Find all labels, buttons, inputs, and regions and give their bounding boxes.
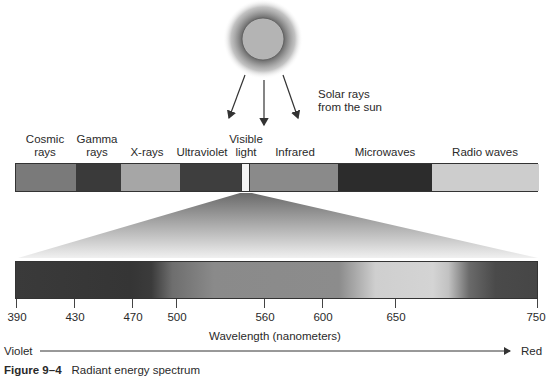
tick-label-560: 560 [255, 311, 274, 323]
ray-arrow-right [283, 75, 298, 118]
band-label-microwaves: Microwaves [345, 146, 425, 159]
band-cosmic [16, 164, 76, 191]
band-radio [432, 164, 539, 191]
band-label-cosmic: Cosmicrays [20, 133, 70, 159]
tick-600 [322, 299, 323, 308]
tick-560 [264, 299, 265, 308]
tick-750 [537, 299, 538, 308]
ray-arrow-left [229, 75, 245, 118]
figure-number: Figure 9–4 [4, 364, 62, 376]
sun-disc [242, 18, 284, 60]
band-visible [241, 164, 250, 191]
tick-label-500: 500 [167, 311, 186, 323]
band-label-gamma: Gammarays [72, 133, 122, 159]
electromagnetic-spectrum-bar [15, 163, 538, 192]
tick-500 [176, 299, 177, 308]
figure-title: Radiant energy spectrum [72, 364, 200, 376]
tick-label-390: 390 [7, 311, 26, 323]
band-label-infrared: Infrared [265, 146, 325, 159]
band-label-ultraviolet: Ultraviolet [170, 146, 234, 159]
band-xrays [121, 164, 180, 191]
sun-label-line1: Solar rays [318, 88, 382, 101]
violet-label: Violet [4, 345, 33, 357]
figure-caption: Figure 9–4Radiant energy spectrum [4, 364, 200, 376]
band-label-xrays: X-rays [122, 146, 172, 159]
tick-label-470: 470 [123, 311, 142, 323]
band-ultraviolet [180, 164, 241, 191]
sun-label-line2: from the sun [318, 101, 382, 114]
tick-390 [16, 299, 17, 308]
x-axis-label: Wavelength (nanometers) [0, 330, 550, 342]
tick-label-600: 600 [313, 311, 332, 323]
band-label-radio: Radio waves [445, 146, 525, 159]
zoom-fan [18, 193, 538, 258]
red-label: Red [521, 345, 542, 357]
band-microwaves [338, 164, 432, 191]
sun-label: Solar rays from the sun [318, 88, 382, 114]
visible-spectrum-bar [15, 261, 538, 299]
tick-label-650: 650 [386, 311, 405, 323]
band-label-visible: Visiblelight [226, 133, 266, 159]
tick-470 [132, 299, 133, 308]
band-gamma [76, 164, 121, 191]
tick-label-750: 750 [526, 311, 545, 323]
tick-650 [395, 299, 396, 308]
tick-label-430: 430 [65, 311, 84, 323]
tick-430 [74, 299, 75, 308]
band-infrared [250, 164, 338, 191]
